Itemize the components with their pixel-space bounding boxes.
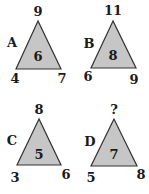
triangle-panel-d: ? D 7 5 8: [75, 97, 149, 194]
triangle-label-c: C: [6, 134, 18, 147]
center-number-a: 6: [32, 50, 44, 63]
center-number-d: 7: [108, 148, 120, 161]
triangle-number-puzzle: 9 A 6 4 7 11 B 8 6 9 8 C 5 3 6 ? D 7 5 8: [0, 0, 149, 194]
right-number-a: 7: [56, 72, 68, 85]
right-number-b: 9: [128, 73, 140, 86]
top-number-c: 8: [33, 103, 45, 116]
top-number-b: 11: [104, 4, 122, 17]
left-number-b: 6: [82, 70, 94, 83]
triangle-panel-a: 9 A 6 4 7: [0, 0, 74, 97]
right-number-c: 6: [60, 168, 72, 181]
left-number-d: 5: [85, 171, 97, 184]
top-number-a: 9: [32, 5, 44, 18]
triangle-panel-b: 11 B 8 6 9: [75, 0, 149, 97]
left-number-c: 3: [9, 171, 21, 184]
top-number-d: ?: [108, 103, 120, 116]
triangle-label-d: D: [83, 135, 97, 148]
center-number-c: 5: [33, 148, 45, 161]
right-number-d: 8: [135, 168, 147, 181]
triangle-label-a: A: [6, 36, 18, 49]
center-number-b: 8: [107, 49, 119, 62]
triangle-panel-c: 8 C 5 3 6: [0, 97, 74, 194]
left-number-a: 4: [9, 72, 21, 85]
triangle-label-b: B: [83, 37, 95, 50]
